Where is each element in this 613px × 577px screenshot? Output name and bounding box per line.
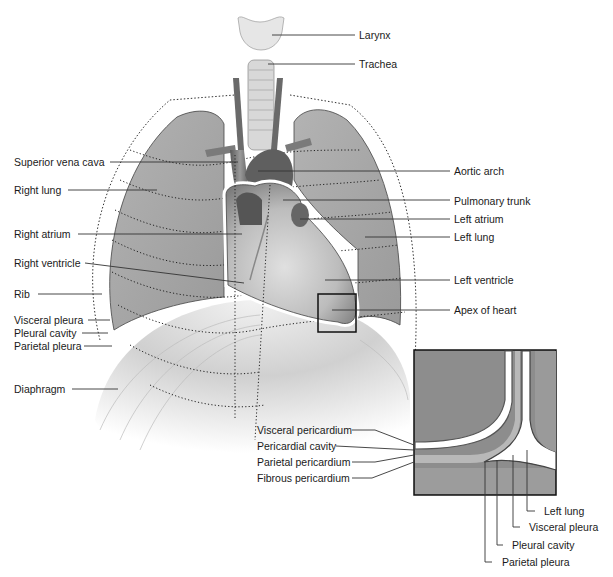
label-parietal-pericardium: Parietal pericardium	[257, 456, 350, 468]
right-lung-shape	[105, 105, 228, 335]
label-parietal-pleura: Parietal pleura	[14, 340, 82, 352]
label-diaphragm: Diaphragm	[14, 383, 65, 395]
label-pulmonary-trunk: Pulmonary trunk	[454, 195, 530, 207]
label-left-lung: Left lung	[454, 231, 494, 243]
label-inset-pleural-cavity: Pleural cavity	[512, 539, 574, 551]
label-aortic-arch: Aortic arch	[454, 165, 504, 177]
label-left-ventricle: Left ventricle	[454, 274, 514, 286]
larynx-shape	[238, 17, 284, 50]
label-apex-of-heart: Apex of heart	[454, 304, 516, 316]
label-trachea: Trachea	[359, 58, 397, 70]
label-right-ventricle: Right ventricle	[14, 257, 81, 269]
anatomy-illustration	[0, 0, 613, 577]
label-visceral-pericardium: Visceral pericardium	[257, 424, 352, 436]
label-larynx: Larynx	[359, 29, 391, 41]
label-pericardial-cavity: Pericardial cavity	[257, 440, 336, 452]
label-inset-visceral-pleura: Visceral pleura	[529, 521, 598, 533]
label-pleural-cavity: Pleural cavity	[14, 327, 76, 339]
trachea-shape	[248, 60, 274, 150]
label-visceral-pleura: Visceral pleura	[14, 314, 83, 326]
diaphragm-shape	[95, 300, 410, 470]
label-right-lung: Right lung	[14, 184, 61, 196]
label-rib: Rib	[14, 288, 30, 300]
label-superior-vena-cava: Superior vena cava	[14, 156, 104, 168]
label-left-atrium: Left atrium	[454, 213, 504, 225]
label-fibrous-pericardium: Fibrous pericardium	[257, 472, 350, 484]
thoracic-anatomy-diagram: Larynx Trachea Aortic arch Pulmonary tru…	[0, 0, 613, 577]
label-inset-parietal-pleura: Parietal pleura	[502, 556, 570, 568]
label-inset-left-lung: Left lung	[544, 505, 584, 517]
label-right-atrium: Right atrium	[14, 228, 71, 240]
